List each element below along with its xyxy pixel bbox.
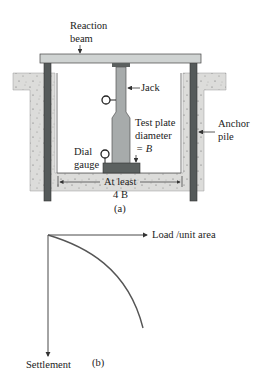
caption-a: (a) — [114, 203, 126, 215]
right-anchor-pile — [190, 62, 197, 201]
reaction-beam-label-1: Reaction — [70, 20, 107, 32]
load-settlement-graph — [48, 235, 147, 356]
anchor-pile-label-2: pile — [218, 131, 234, 143]
test-plate — [103, 163, 140, 173]
settlement-axis-label: Settlement — [26, 359, 71, 371]
jack-label: Jack — [141, 82, 160, 94]
reaction-beam — [40, 54, 201, 63]
left-anchor-pile — [44, 62, 51, 201]
test-plate-label-3: = B — [136, 143, 152, 155]
at-least-label: At least — [104, 176, 136, 188]
caption-b: (b) — [92, 357, 104, 369]
dial-gauge-label-1: Dial — [74, 146, 92, 158]
dial-gauge-label-2: gauge — [74, 159, 99, 171]
load-axis-label: Load /unit area — [152, 229, 216, 241]
reaction-beam-label-2: beam — [70, 33, 93, 45]
test-plate-label-2: diameter — [135, 130, 172, 142]
anchor-pile-label-1: Anchor — [218, 118, 250, 130]
load-settlement-curve — [48, 235, 143, 328]
test-plate-label-1: Test plate — [135, 117, 175, 129]
jack-gauge-icon — [102, 96, 110, 104]
four-b-label: 4 B — [113, 189, 128, 201]
dial-gauge-icon — [101, 150, 109, 158]
plate-load-test-diagram — [0, 0, 266, 383]
